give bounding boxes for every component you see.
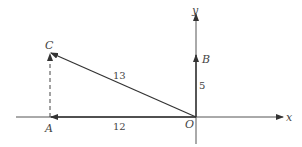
length-oc: 13 — [113, 70, 126, 81]
vector-oc — [51, 53, 196, 117]
length-oa: 12 — [113, 121, 126, 132]
label-b: B — [201, 53, 210, 66]
label-o: O — [185, 118, 194, 131]
label-x-axis: x — [286, 111, 293, 124]
label-c: C — [45, 39, 54, 52]
label-a: A — [44, 122, 53, 135]
label-y-axis: y — [191, 4, 199, 17]
length-ob: 5 — [199, 80, 205, 91]
diagram-canvas: C A O B y x 13 12 5 — [0, 0, 302, 147]
